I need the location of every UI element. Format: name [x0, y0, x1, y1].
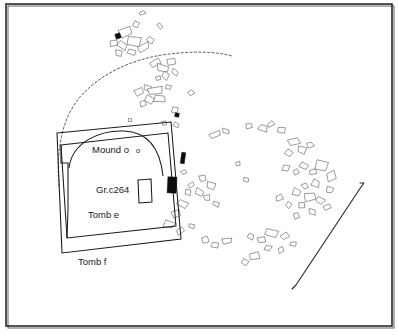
stone-outline: [211, 242, 219, 248]
stone-outline: [167, 58, 176, 65]
map-label-mound-o-sub: o: [136, 146, 140, 155]
map-label-tomb-f: Tomb f: [78, 256, 107, 267]
stone-outline: [165, 85, 171, 90]
stone-outline: [171, 107, 178, 113]
stone-outline: [257, 237, 266, 243]
solid-feature-marker: [175, 113, 180, 118]
site-plan-canvas: Mound ooGr.c264Tomb eTomb f: [0, 0, 399, 336]
map-label-mound-o: Mound o: [92, 144, 129, 155]
stone-outline: [128, 119, 131, 122]
stone-outline: [277, 127, 285, 133]
map-label-gr-c264: Gr.c264: [96, 184, 129, 195]
site-plan-figure: Mound ooGr.c264Tomb eTomb f: [0, 0, 399, 336]
solid-feature-marker: [167, 177, 177, 193]
stone-outline: [299, 202, 305, 208]
stone-outline: [290, 242, 297, 246]
plan-background: [0, 0, 399, 336]
map-label-tomb-e: Tomb e: [88, 209, 119, 220]
stone-outline: [116, 50, 122, 57]
stone-outline: [153, 95, 165, 102]
